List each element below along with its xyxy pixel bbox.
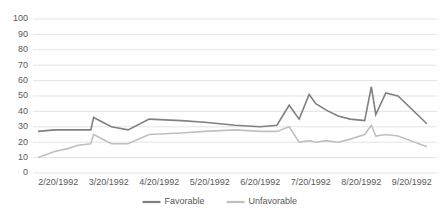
y-axis-tick-label: 60 (18, 75, 28, 85)
y-axis-tick-labels: 1009080706050403020100 (13, 13, 28, 177)
x-axis-tick-label: 9/20/1992 (392, 177, 432, 187)
y-axis-tick-label: 80 (18, 44, 28, 54)
y-axis-tick-label: 100 (13, 13, 28, 23)
x-axis-tick-label: 8/20/1992 (341, 177, 381, 187)
chart-canvas: 1009080706050403020100 2/20/19923/20/199… (0, 0, 445, 220)
y-axis-tick-label: 50 (18, 90, 28, 100)
legend-label-unfavorable: Unfavorable (249, 196, 298, 206)
x-axis-tick-label: 5/20/1992 (190, 177, 230, 187)
y-axis-tick-label: 20 (18, 137, 28, 147)
y-axis-tick-label: 10 (18, 152, 28, 162)
x-axis-tick-label: 6/20/1992 (240, 177, 280, 187)
x-axis-tick-label: 2/20/1992 (38, 177, 78, 187)
data-series (38, 87, 427, 158)
x-axis-tick-label: 4/20/1992 (139, 177, 179, 187)
gridlines (33, 19, 437, 173)
series-line-favorable (38, 87, 427, 132)
x-axis-tick-label: 7/20/1992 (291, 177, 331, 187)
legend-label-favorable: Favorable (165, 196, 205, 206)
chart-legend: FavorableUnfavorable (143, 196, 298, 206)
y-axis-tick-label: 0 (23, 167, 28, 177)
x-axis-tick-labels: 2/20/19923/20/19924/20/19925/20/19926/20… (38, 177, 432, 187)
x-axis-tick-label: 3/20/1992 (89, 177, 129, 187)
y-axis-tick-label: 90 (18, 29, 28, 39)
y-axis-tick-label: 30 (18, 121, 28, 131)
y-axis-tick-label: 40 (18, 106, 28, 116)
y-axis-tick-label: 70 (18, 60, 28, 70)
line-chart: 1009080706050403020100 2/20/19923/20/199… (0, 0, 445, 220)
series-line-unfavorable (38, 125, 427, 157)
